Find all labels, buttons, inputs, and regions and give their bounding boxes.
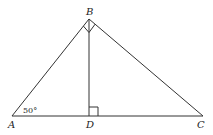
- point-label-a: A: [7, 119, 15, 130]
- triangle-diagram: B A D C 50°: [0, 0, 213, 135]
- segment-bc: [89, 19, 203, 116]
- point-label-b: B: [85, 6, 93, 17]
- point-label-d: D: [85, 119, 94, 130]
- point-label-c: C: [197, 119, 205, 130]
- angle-label-a: 50°: [23, 106, 37, 115]
- segment-ab: [12, 19, 89, 116]
- right-angle-marker-d: [89, 107, 98, 116]
